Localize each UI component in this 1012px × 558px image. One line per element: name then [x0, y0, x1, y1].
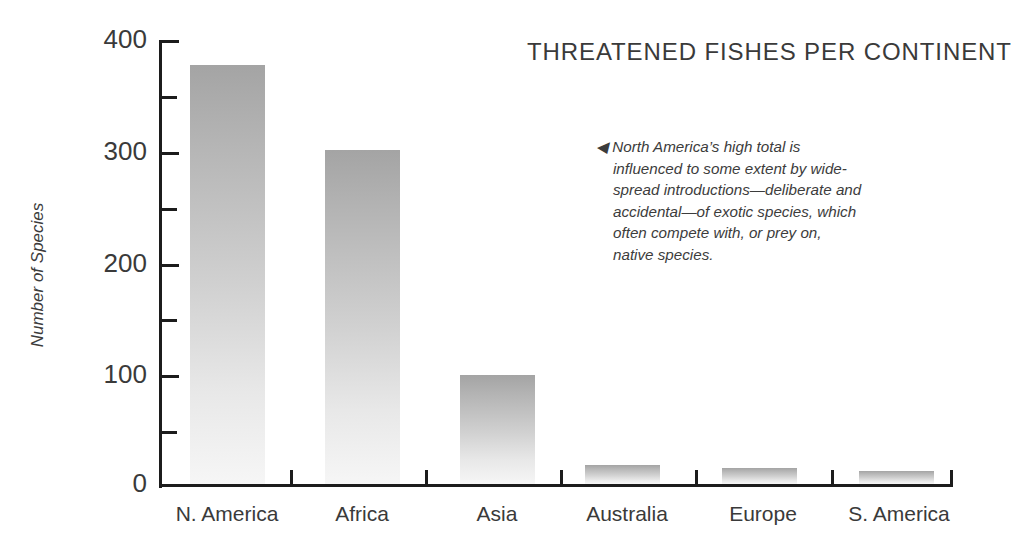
y-tick-250 — [159, 208, 177, 211]
y-tick-label-100: 100 — [104, 361, 147, 387]
y-tick-400: 400 — [159, 40, 179, 43]
x-label-asia: Asia — [477, 502, 518, 526]
x-label-africa: Africa — [335, 502, 389, 526]
x-axis-end-tick — [950, 470, 953, 487]
bar-europe — [722, 468, 797, 484]
x-label-n-america: N. America — [176, 502, 279, 526]
y-axis-title: Number of Species — [28, 175, 48, 375]
x-tick-5 — [831, 470, 834, 487]
y-tick-0: 0 — [159, 484, 179, 487]
y-tick-200: 200 — [159, 264, 179, 267]
y-tick-350 — [159, 96, 177, 99]
y-tick-100: 100 — [159, 375, 179, 378]
x-tick-1 — [290, 470, 293, 487]
x-label-s-america: S. America — [848, 502, 950, 526]
y-tick-50 — [159, 431, 177, 434]
y-tick-label-200: 200 — [104, 250, 147, 276]
x-label-europe: Europe — [729, 502, 797, 526]
bar-asia — [460, 375, 535, 485]
x-tick-4 — [695, 470, 698, 487]
bar-s-america — [859, 471, 934, 484]
plot-area: 400 300 200 100 0 N. America — [159, 40, 953, 487]
y-tick-label-300: 300 — [104, 138, 147, 164]
y-tick-300: 300 — [159, 152, 179, 155]
bar-n-america — [190, 65, 265, 484]
x-tick-2 — [425, 470, 428, 487]
x-label-australia: Australia — [586, 502, 668, 526]
bar-australia — [585, 465, 660, 484]
bar-africa — [325, 150, 400, 484]
x-tick-3 — [560, 470, 563, 487]
y-tick-label-400: 400 — [104, 26, 147, 52]
y-tick-label-0: 0 — [133, 470, 147, 496]
y-tick-150 — [159, 319, 177, 322]
